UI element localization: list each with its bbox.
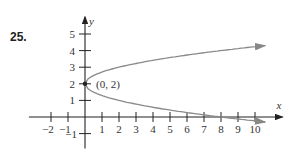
x-tick-label: 1 bbox=[99, 123, 105, 135]
x-tick-label: 2 bbox=[116, 123, 122, 135]
x-tick-label: 3 bbox=[133, 123, 139, 135]
x-tick-label: 9 bbox=[235, 123, 241, 135]
x-tick-label: 5 bbox=[167, 123, 173, 135]
x-axis-label: x bbox=[276, 99, 282, 111]
x-tick-label: −2 bbox=[42, 123, 54, 135]
x-tick-label: 7 bbox=[201, 123, 207, 135]
vertex-point bbox=[83, 82, 87, 86]
y-tick-label: −1 bbox=[65, 128, 77, 140]
y-tick-label: 4 bbox=[70, 45, 76, 57]
y-tick-label: 1 bbox=[70, 94, 76, 106]
y-tick-label: 3 bbox=[70, 61, 76, 73]
parabola-graph: −2−112345678910−112345xy(0, 2) bbox=[0, 0, 289, 156]
tick-labels: −2−112345678910−112345xy(0, 2) bbox=[42, 15, 281, 140]
x-tick-label: 8 bbox=[218, 123, 224, 135]
vertex-label: (0, 2) bbox=[96, 78, 120, 91]
x-tick-label: 10 bbox=[250, 123, 262, 135]
y-axis-label: y bbox=[88, 15, 94, 27]
x-tick-label: 6 bbox=[184, 123, 190, 135]
y-tick-label: 5 bbox=[70, 28, 76, 40]
x-tick-label: 4 bbox=[150, 123, 156, 135]
y-tick-label: 2 bbox=[70, 78, 76, 90]
